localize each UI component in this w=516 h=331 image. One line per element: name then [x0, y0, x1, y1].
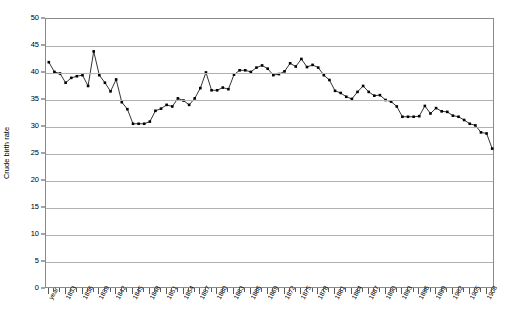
- data-point: [407, 115, 410, 118]
- x-tick-mark: [59, 288, 60, 292]
- data-point: [379, 94, 382, 97]
- x-tick-mark: [104, 288, 105, 292]
- x-tick-mark: [289, 288, 290, 292]
- data-point: [446, 111, 449, 114]
- data-point: [294, 65, 297, 68]
- x-tick-mark: [227, 288, 228, 292]
- x-tick-mark: [53, 288, 54, 292]
- x-tick-mark: [70, 288, 71, 292]
- y-tick-label: 50: [31, 14, 39, 22]
- x-tick-mark: [463, 288, 464, 292]
- x-tick-mark: [154, 288, 155, 292]
- x-tick-mark: [121, 288, 122, 292]
- x-tick-mark: [446, 288, 447, 292]
- data-point: [188, 104, 191, 107]
- data-point: [104, 81, 107, 84]
- x-tick-mark: [211, 288, 212, 292]
- data-point: [81, 74, 84, 77]
- data-point: [334, 90, 337, 93]
- plot-area: [45, 18, 494, 288]
- x-tick-mark: [278, 288, 279, 292]
- x-tick-mark: [194, 288, 195, 292]
- x-tick-mark: [87, 288, 88, 292]
- x-tick-mark: [458, 288, 459, 292]
- gridline: [46, 181, 493, 182]
- x-tick-mark: [413, 288, 414, 292]
- gridline: [46, 100, 493, 101]
- data-point: [227, 88, 230, 91]
- x-tick-mark: [177, 288, 178, 292]
- y-tick-label: 35: [31, 95, 39, 103]
- x-tick-mark: [357, 288, 358, 292]
- data-point: [480, 131, 483, 134]
- data-point: [429, 112, 432, 115]
- data-point: [345, 95, 348, 98]
- data-point: [70, 77, 73, 80]
- x-tick-mark: [396, 288, 397, 292]
- data-point: [244, 69, 247, 72]
- x-axis: year183318361839184218451848185118541857…: [0, 288, 516, 331]
- data-point: [87, 85, 90, 88]
- data-point: [48, 61, 51, 64]
- x-tick-mark: [480, 288, 481, 292]
- gridline: [46, 46, 493, 47]
- data-point: [306, 66, 309, 69]
- x-tick-mark: [126, 288, 127, 292]
- data-point: [424, 105, 427, 108]
- data-point: [373, 94, 376, 97]
- data-point: [362, 85, 365, 88]
- data-point: [149, 120, 152, 123]
- data-point: [452, 114, 455, 117]
- data-point: [255, 66, 258, 69]
- data-point: [311, 64, 314, 67]
- x-tick-mark: [430, 288, 431, 292]
- data-point: [395, 105, 398, 108]
- x-tick-mark: [261, 288, 262, 292]
- data-point: [92, 50, 95, 53]
- data-point: [154, 110, 157, 113]
- data-point: [238, 69, 241, 72]
- y-tick-label: 45: [31, 41, 39, 49]
- x-tick-mark: [272, 288, 273, 292]
- y-tick-label: 5: [35, 257, 39, 265]
- gridline: [46, 208, 493, 209]
- x-tick-mark: [328, 288, 329, 292]
- chart-container: Crude birth rate 05101520253035404550 ye…: [0, 0, 516, 331]
- data-point: [199, 87, 202, 90]
- x-tick-mark: [171, 288, 172, 292]
- data-point: [317, 66, 320, 69]
- x-tick-mark: [441, 288, 442, 292]
- data-point: [216, 89, 219, 92]
- data-point: [221, 86, 224, 89]
- data-point: [457, 115, 460, 118]
- y-tick-label: 10: [31, 230, 39, 238]
- x-tick-mark: [379, 288, 380, 292]
- x-tick-mark: [306, 288, 307, 292]
- x-tick-mark: [390, 288, 391, 292]
- y-axis: 05101520253035404550: [0, 0, 45, 331]
- x-tick-mark: [424, 288, 425, 292]
- x-tick-mark: [239, 288, 240, 292]
- data-point: [109, 90, 112, 93]
- data-point: [485, 132, 488, 135]
- data-point: [300, 58, 303, 61]
- data-point: [64, 81, 67, 84]
- gridline: [46, 235, 493, 236]
- data-point: [289, 62, 292, 65]
- x-tick-mark: [295, 288, 296, 292]
- data-point: [261, 64, 264, 67]
- x-tick-mark: [76, 288, 77, 292]
- gridline: [46, 262, 493, 263]
- data-point: [115, 78, 118, 81]
- x-tick-mark: [407, 288, 408, 292]
- x-tick-mark: [143, 288, 144, 292]
- y-tick-label: 15: [31, 203, 39, 211]
- data-point: [401, 115, 404, 118]
- data-point: [76, 75, 79, 78]
- x-tick-mark: [138, 288, 139, 292]
- gridline: [46, 73, 493, 74]
- x-tick-mark: [244, 288, 245, 292]
- data-point: [137, 122, 140, 125]
- data-point: [356, 91, 359, 94]
- data-point: [468, 122, 471, 125]
